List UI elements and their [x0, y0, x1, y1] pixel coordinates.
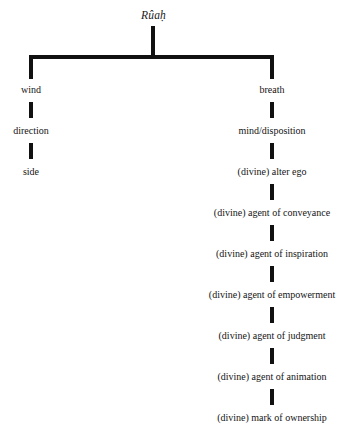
node-agent-of-judgment: (divine) agent of judgment [219, 330, 326, 342]
connector-animation-ownership [270, 389, 274, 405]
ruah-tree-diagram: Rûaḥ wind direction side breath mind/dis… [0, 0, 360, 443]
branch-splitter-bar [29, 55, 274, 59]
root-label: Rûaḥ [0, 9, 307, 21]
connector-alterego-conveyance [270, 184, 274, 200]
connector-empowerment-judgment [270, 307, 274, 323]
node-agent-of-inspiration: (divine) agent of inspiration [216, 248, 328, 260]
left-branch-drop [29, 55, 33, 79]
node-agent-of-empowerment: (divine) agent of empowerment [209, 289, 335, 301]
node-agent-of-animation: (divine) agent of animation [217, 371, 326, 383]
node-mind-disposition: mind/disposition [238, 125, 305, 137]
node-side: side [23, 166, 39, 178]
node-direction: direction [13, 125, 49, 137]
node-agent-of-conveyance: (divine) agent of conveyance [214, 207, 330, 219]
connector-judgment-animation [270, 348, 274, 364]
connector-breath-mind [270, 102, 274, 118]
connector-direction-side [29, 143, 33, 159]
connector-conveyance-inspiration [270, 225, 274, 241]
root-stem [151, 26, 155, 57]
node-wind: wind [21, 84, 41, 96]
node-mark-of-ownership: (divine) mark of ownership [217, 412, 327, 424]
connector-inspiration-empowerment [270, 266, 274, 282]
node-alter-ego: (divine) alter ego [238, 166, 307, 178]
connector-wind-direction [29, 102, 33, 118]
node-breath: breath [260, 84, 285, 96]
right-branch-drop [270, 55, 274, 79]
connector-mind-alterego [270, 143, 274, 159]
